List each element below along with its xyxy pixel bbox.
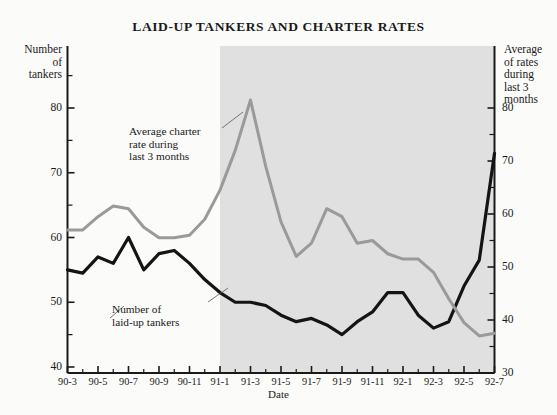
- annotation-charter-rate: Average charter rate during last 3 month…: [129, 125, 201, 163]
- plot-area: [0, 0, 557, 415]
- y-axis-right-tick-70: 70: [502, 155, 528, 167]
- shaded-band: [220, 46, 495, 373]
- y-axis-right-tick-80: 80: [502, 102, 528, 114]
- y-axis-right-tick-40: 40: [502, 314, 528, 326]
- y-axis-right-tick-50: 50: [502, 261, 528, 273]
- y-axis-left-tick-70: 70: [36, 167, 62, 179]
- x-axis-title: Date: [0, 388, 557, 400]
- y-axis-left-tick-60: 60: [36, 232, 62, 244]
- y-axis-left-tick-40: 40: [36, 361, 62, 373]
- y-axis-left-tick-50: 50: [36, 296, 62, 308]
- y-axis-right-tick-60: 60: [502, 208, 528, 220]
- y-axis-left-tick-80: 80: [36, 102, 62, 114]
- x-axis-tick-92-7: 92-7: [473, 377, 517, 387]
- annotation-charter-rate-line-2: rate during: [129, 138, 201, 151]
- annotation-charter-rate-line-1: Average charter: [129, 125, 201, 138]
- chart-figure: LAID-UP TANKERS AND CHARTER RATES Number…: [0, 0, 557, 415]
- annotation-laid-up-tankers-line-1: Number of: [112, 303, 179, 316]
- annotation-charter-rate-line-3: last 3 months: [129, 150, 201, 163]
- annotation-laid-up-tankers: Number of laid-up tankers: [112, 303, 179, 328]
- annotation-laid-up-tankers-line-2: laid-up tankers: [112, 316, 179, 329]
